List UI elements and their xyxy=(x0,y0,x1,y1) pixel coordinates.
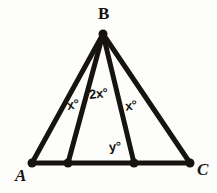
vertex-dot-B xyxy=(99,30,108,39)
vertex-label-B: B xyxy=(98,5,109,22)
vertex-label-C: C xyxy=(197,161,208,178)
angle-label-abd: x° xyxy=(66,97,80,112)
angle-label-bea: y° xyxy=(109,140,122,154)
angle-label-dbe: 2x° xyxy=(88,86,108,101)
vertex-dot-D xyxy=(64,159,73,168)
vertex-label-A: A xyxy=(15,167,26,184)
vertex-dot-E xyxy=(130,159,139,168)
vertex-dot-A xyxy=(28,159,37,168)
vertex-dot-C xyxy=(186,159,195,168)
angle-label-ebc: x° xyxy=(124,98,138,113)
triangle-figure xyxy=(0,0,217,193)
geometry-diagram-canvas: B A C x° 2x° x° y° xyxy=(0,0,217,193)
